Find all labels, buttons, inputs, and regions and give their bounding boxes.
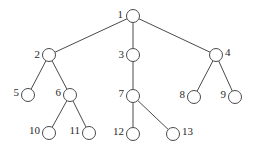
node-circle [83, 127, 96, 140]
node-circle [127, 10, 140, 23]
node-label: 2 [35, 48, 41, 60]
tree-node-4: 4 [210, 46, 232, 62]
node-circle [127, 90, 140, 103]
tree-node-10: 10 [29, 124, 56, 140]
tree-node-3: 3 [119, 48, 140, 62]
tree-node-1: 1 [118, 8, 140, 23]
tree-node-11: 11 [69, 124, 95, 140]
node-circle [22, 89, 35, 102]
node-label: 4 [225, 46, 231, 58]
tree-node-13: 13 [167, 125, 194, 141]
node-label: 13 [182, 125, 194, 137]
node-label: 6 [56, 86, 62, 98]
tree-node-12: 12 [113, 125, 140, 141]
node-label: 3 [119, 48, 125, 60]
edges-group [31, 19, 232, 130]
node-label: 1 [118, 8, 124, 20]
node-circle [43, 49, 56, 62]
node-label: 11 [69, 124, 80, 136]
node-label: 10 [29, 124, 41, 136]
node-label: 9 [221, 88, 227, 100]
node-circle [127, 128, 140, 141]
node-label: 12 [113, 125, 124, 137]
node-circle [64, 89, 77, 102]
edge-4-8 [197, 61, 213, 91]
edge-7-13 [138, 100, 169, 129]
node-circle [229, 91, 242, 104]
node-label: 8 [180, 88, 186, 100]
nodes-group: 12345678910111213 [14, 8, 242, 141]
tree-node-7: 7 [119, 87, 140, 103]
node-circle [167, 128, 180, 141]
tree-diagram: 12345678910111213 [0, 0, 254, 153]
node-circle [188, 91, 201, 104]
edge-2-5 [31, 61, 46, 89]
node-label: 5 [14, 86, 20, 98]
node-circle [127, 49, 140, 62]
edge-1-2 [55, 19, 127, 53]
node-circle [210, 49, 223, 62]
tree-node-2: 2 [35, 48, 56, 62]
edge-6-10 [52, 101, 67, 128]
node-label: 7 [119, 87, 125, 99]
tree-node-9: 9 [221, 88, 242, 104]
edge-1-4 [139, 19, 210, 52]
node-circle [43, 127, 56, 140]
